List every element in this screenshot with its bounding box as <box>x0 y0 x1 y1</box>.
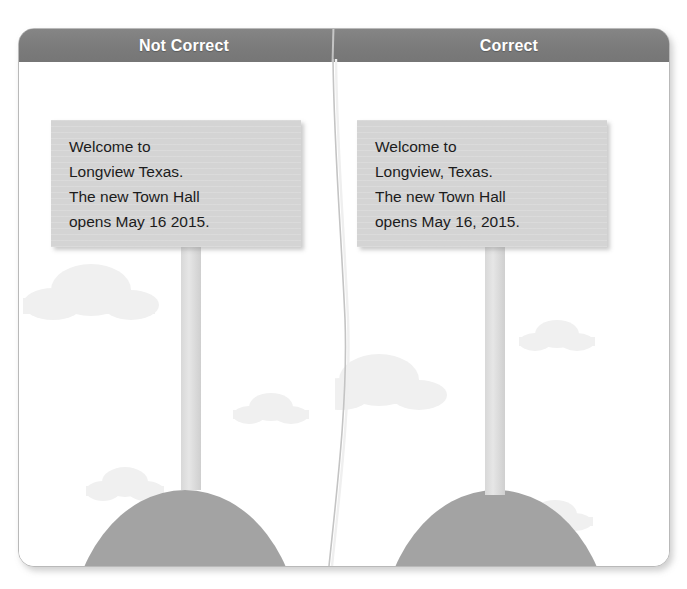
sign-line-3: The new Town Hall <box>375 184 589 209</box>
cloud-large-icon <box>335 354 447 410</box>
comparison-card: Not Correct Correct <box>18 28 670 567</box>
sign-line-2: Longview, Texas. <box>375 159 589 184</box>
panel-not-correct: Welcome to Longview Texas. The new Town … <box>19 62 333 566</box>
sign-board-correct: Welcome to Longview, Texas. The new Town… <box>357 120 607 247</box>
cloud-small-icon <box>233 393 309 424</box>
cloud-small-top-icon <box>519 320 595 351</box>
column-header-not-correct-label: Not Correct <box>139 37 229 55</box>
cloud-large-icon <box>23 264 159 320</box>
column-header-correct: Correct <box>349 29 669 62</box>
sign-line-3: The new Town Hall <box>69 184 283 209</box>
sign-line-4: opens May 16 2015. <box>69 209 283 234</box>
sign-line-4: opens May 16, 2015. <box>375 209 589 234</box>
panel-correct: Welcome to Longview, Texas. The new Town… <box>335 62 669 566</box>
column-header-correct-label: Correct <box>480 37 538 55</box>
sign-line-1: Welcome to <box>375 134 589 159</box>
figure-root: Not Correct Correct <box>0 0 687 589</box>
sign-line-1: Welcome to <box>69 134 283 159</box>
sign-line-2: Longview Texas. <box>69 159 283 184</box>
header-bar: Not Correct Correct <box>19 29 669 62</box>
sign-board-not-correct: Welcome to Longview Texas. The new Town … <box>51 120 301 247</box>
column-header-not-correct: Not Correct <box>19 29 349 62</box>
